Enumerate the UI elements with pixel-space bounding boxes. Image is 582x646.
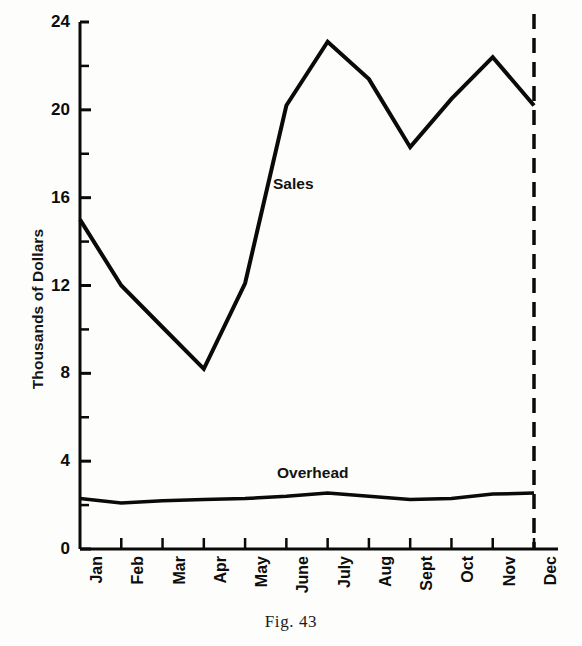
figure-container: Thousands of Dollars 04812162024 JanFebM…: [0, 0, 582, 646]
y-tick-label: 20: [36, 100, 70, 120]
x-tick-label-jan: Jan: [88, 556, 106, 584]
x-tick-label-may: May: [253, 556, 271, 587]
y-axis-ticks: [80, 66, 91, 549]
x-tick-label-apr: Apr: [212, 556, 230, 584]
x-tick-label-june: June: [294, 556, 312, 593]
data-series-lines: [80, 42, 534, 503]
series-label-overhead: Overhead: [277, 464, 349, 482]
y-tick-label: 8: [36, 363, 70, 383]
chart-plot-area: [0, 0, 582, 646]
x-tick-label-mar: Mar: [171, 556, 189, 584]
x-tick-label-nov: Nov: [501, 556, 519, 586]
x-tick-label-oct: Oct: [459, 556, 477, 583]
series-label-sales: Sales: [273, 175, 314, 193]
x-tick-label-feb: Feb: [129, 556, 147, 584]
y-tick-label: 0: [36, 539, 70, 559]
x-tick-label-july: July: [336, 556, 354, 588]
x-tick-label-dec: Dec: [542, 556, 560, 585]
y-tick-label: 16: [36, 188, 70, 208]
y-tick-label: 12: [36, 276, 70, 296]
x-axis-ticks: [121, 538, 534, 549]
x-tick-label-aug: Aug: [377, 556, 395, 587]
x-tick-label-sept: Sept: [418, 556, 436, 591]
y-tick-label: 4: [36, 451, 70, 471]
figure-caption: Fig. 43: [0, 612, 582, 632]
y-tick-label: 24: [36, 12, 70, 32]
